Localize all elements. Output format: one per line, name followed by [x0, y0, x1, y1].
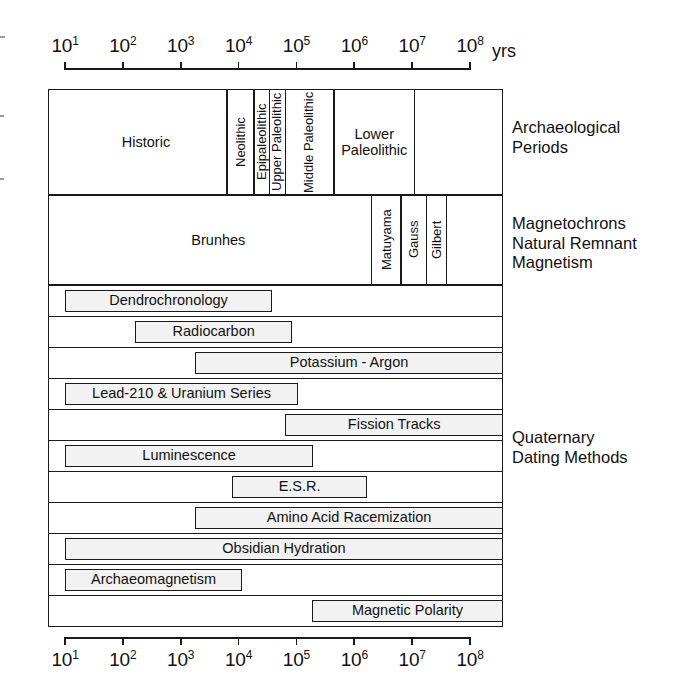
method-bar-archaeomagnetism: Archaeomagnetism: [65, 569, 242, 591]
magnetochron-divider-3: [446, 195, 447, 284]
method-bar-label: Magnetic Polarity: [352, 603, 463, 618]
method-row-separator-6: [48, 502, 503, 503]
method-bar-dendrochronology: Dendrochronology: [65, 290, 272, 312]
axis-tick-10e6: [353, 637, 355, 645]
axis-tick-10e2: [122, 62, 124, 70]
method-bar-e-s-r: E.S.R.: [232, 476, 367, 498]
method-bar-label: Radiocarbon: [173, 324, 255, 339]
axis-tick-label-10e3: 103: [167, 650, 194, 669]
magnetochron-cell-gauss: Gauss: [401, 195, 426, 284]
method-bar-potassium-argon: Potassium - Argon: [195, 352, 503, 374]
axis-tick-10e5: [296, 62, 298, 70]
method-bar-label: Obsidian Hydration: [222, 541, 345, 556]
archaeological-cell-historic: Historic: [65, 90, 227, 194]
top-axis-tick-labels: 101102103104105106107108: [0, 36, 683, 62]
scan-edge-mark-mid: [0, 115, 4, 117]
axis-tick-label-10e7: 107: [399, 650, 426, 669]
axis-tick-10e7: [411, 62, 413, 70]
magnetochron-cell-brunhes: Brunhes: [65, 195, 372, 284]
method-bar-label: Amino Acid Racemization: [267, 510, 431, 525]
method-bar-lead-210-uranium-series: Lead-210 & Uranium Series: [65, 383, 298, 405]
axis-tick-label-10e7: 107: [399, 36, 426, 55]
axis-tick-10e6: [353, 62, 355, 70]
band-divider-magnetochrons-methods: [48, 284, 503, 286]
scan-edge-mark-low: [0, 178, 4, 180]
axis-tick-label-10e3: 103: [167, 36, 194, 55]
axis-tick-label-10e5: 105: [283, 36, 310, 55]
magnetochron-cell-matuyama: Matuyama: [372, 195, 402, 284]
archaeological-cell-neolithic: Neolithic: [227, 90, 254, 194]
axis-tick-label-10e2: 102: [109, 650, 136, 669]
axis-tick-10e1: [64, 637, 66, 645]
axis-tick-label-10e1: 101: [51, 650, 78, 669]
axis-tick-10e4: [238, 62, 240, 70]
bottom-axis-tick-labels: 101102103104105106107108: [0, 650, 683, 676]
method-row-separator-0: [48, 316, 503, 317]
method-bar-label: Lead-210 & Uranium Series: [92, 386, 271, 401]
axis-tick-10e5: [296, 637, 298, 645]
axis-tick-10e7: [411, 637, 413, 645]
method-bar-label: Potassium - Argon: [290, 355, 408, 370]
archaeological-cell-upper-paleolithic: Upper Paleolithic: [269, 90, 285, 194]
side-label-archaeological-periods: Archaeological Periods: [512, 118, 620, 157]
method-bar-luminescence: Luminescence: [65, 445, 313, 467]
axis-tick-10e8: [469, 637, 471, 645]
axis-tick-10e3: [180, 637, 182, 645]
method-row-separator-5: [48, 471, 503, 472]
axis-tick-10e3: [180, 62, 182, 70]
top-axis-unit-label: yrs: [492, 42, 516, 60]
method-row-separator-7: [48, 533, 503, 534]
method-row-separator-9: [48, 595, 503, 596]
method-row-separator-3: [48, 409, 503, 410]
archaeological-divider-5: [414, 90, 415, 194]
method-bar-magnetic-polarity: Magnetic Polarity: [312, 600, 503, 622]
axis-tick-label-10e8: 108: [456, 650, 483, 669]
axis-tick-label-10e1: 101: [51, 36, 78, 55]
axis-baseline: [65, 637, 470, 639]
axis-tick-label-10e4: 104: [225, 650, 252, 669]
axis-tick-10e8: [469, 62, 471, 70]
method-bar-obsidian-hydration: Obsidian Hydration: [65, 538, 503, 560]
archaeological-cell-epipaleolithic: Epipaleolithic: [254, 90, 269, 194]
axis-tick-label-10e6: 106: [341, 36, 368, 55]
axis-tick-label-10e5: 105: [283, 650, 310, 669]
method-row-separator-4: [48, 440, 503, 441]
axis-tick-label-10e4: 104: [225, 36, 252, 55]
side-label-quaternary-dating-methods: Quaternary Dating Methods: [512, 428, 628, 467]
axis-tick-label-10e6: 106: [341, 650, 368, 669]
archaeological-cell-middle-paleolithic: Middle Paleolithic: [285, 90, 334, 194]
axis-tick-10e4: [238, 637, 240, 645]
archaeological-cell-lower-paleolithic: Lower Paleolithic: [334, 90, 414, 194]
method-row-separator-2: [48, 378, 503, 379]
method-row-separator-1: [48, 347, 503, 348]
axis-tick-10e1: [64, 62, 66, 70]
method-bar-label: Luminescence: [142, 448, 236, 463]
method-bar-label: Dendrochronology: [109, 293, 228, 308]
method-bar-radiocarbon: Radiocarbon: [135, 321, 292, 343]
method-bar-amino-acid-racemization: Amino Acid Racemization: [195, 507, 503, 529]
method-row-separator-8: [48, 564, 503, 565]
axis-tick-label-10e2: 102: [109, 36, 136, 55]
axis-baseline: [65, 68, 470, 70]
method-bar-label: Fission Tracks: [348, 417, 441, 432]
axis-tick-label-10e8: 108: [456, 36, 483, 55]
method-bar-label: Archaeomagnetism: [91, 572, 216, 587]
dating-methods-figure: 101102103104105106107108 yrs HistoricNeo…: [0, 0, 683, 700]
axis-tick-10e2: [122, 637, 124, 645]
method-bar-label: E.S.R.: [279, 479, 321, 494]
magnetochron-cell-gilbert: Gilbert: [427, 195, 447, 284]
side-label-magnetochrons: Magnetochrons Natural Remnant Magnetism: [512, 214, 637, 273]
method-bar-fission-tracks: Fission Tracks: [285, 414, 503, 436]
